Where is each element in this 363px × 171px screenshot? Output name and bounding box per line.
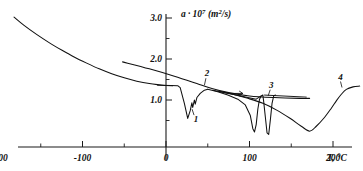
curve-4 (218, 86, 360, 131)
curve-label-2-leader (204, 78, 206, 85)
x-axis-title: T, °C (327, 153, 347, 163)
curve-label-4: 4 (337, 72, 343, 82)
y-axis-title-dot: · (188, 9, 191, 19)
y-axis-ticks (166, 18, 172, 121)
curve-1 (158, 85, 208, 118)
x-axis-tick-labels: -200-1000100200 (0, 153, 340, 163)
curve-label-3: 3 (268, 80, 274, 90)
x-tick-label: -200 (0, 153, 8, 163)
y-axis-tick-labels: 1.02.03.0 (149, 13, 162, 105)
curve-2 (123, 62, 310, 99)
curve-annotations-group: 1234 (192, 68, 343, 124)
chart-figure: -200-1000100200 1.02.03.0 1234 a·107(m2/… (0, 0, 363, 171)
y-axis-title-symbol: a (181, 9, 186, 19)
background-decay-curve (14, 17, 173, 85)
y-axis-title-base: 10 (193, 9, 203, 19)
data-curves-group (14, 17, 360, 134)
curve-label-3-leader (268, 90, 270, 96)
curve-label-4-leader (341, 82, 343, 88)
curve-3-plateau (265, 95, 307, 97)
x-axis-ticks (0, 141, 333, 147)
y-axis-title-units: (m (208, 9, 219, 20)
y-tick-label: 2.0 (149, 54, 162, 64)
x-tick-label: 100 (242, 153, 257, 163)
x-tick-label: -100 (74, 153, 92, 163)
y-tick-label: 1.0 (150, 95, 162, 105)
y-axis-title-exponent: 7 (202, 8, 206, 15)
svg-text:a·107(m2/s): a·107(m2/s) (181, 8, 231, 20)
y-axis-title-units-rest: /s) (221, 9, 232, 20)
y-axis-title: a·107(m2/s) (181, 8, 231, 20)
x-tick-label: 0 (164, 153, 169, 163)
curve-label-2: 2 (204, 68, 210, 78)
curve-label-1: 1 (194, 114, 199, 124)
axes-group (18, 14, 352, 160)
y-tick-label: 3.0 (149, 13, 162, 23)
chart-plot-area: -200-1000100200 1.02.03.0 1234 a·107(m2/… (0, 0, 363, 171)
